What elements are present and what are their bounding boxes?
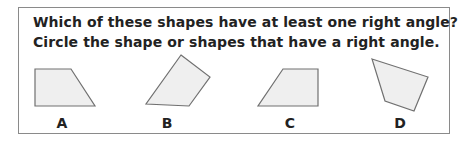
shape-c[interactable] — [258, 69, 318, 106]
shape-a[interactable] — [35, 69, 95, 106]
shape-label-a: A — [52, 114, 72, 132]
shape-label-c: C — [280, 114, 300, 132]
shape-label-d: D — [390, 114, 410, 132]
shape-d[interactable] — [372, 59, 428, 111]
shape-b[interactable] — [146, 55, 210, 106]
shape-label-b: B — [157, 114, 177, 132]
